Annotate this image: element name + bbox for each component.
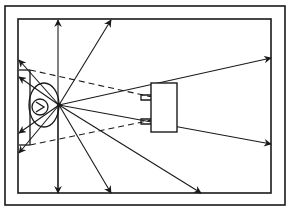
ear-circle <box>32 99 48 115</box>
source-point <box>57 103 61 107</box>
inner-wall <box>18 19 271 193</box>
sight-line-bottom <box>30 120 152 145</box>
ray-1 <box>59 20 111 105</box>
speaker-notch-top <box>141 95 151 100</box>
speaker-body <box>151 83 177 132</box>
nose-chevron <box>36 102 44 112</box>
outer-wall <box>5 6 285 205</box>
head-outline <box>29 83 59 127</box>
sound-rays <box>19 20 271 193</box>
ray-8 <box>19 77 59 105</box>
ray-5 <box>59 105 111 193</box>
ray-7 <box>19 60 59 105</box>
room-acoustics-diagram <box>0 0 295 220</box>
